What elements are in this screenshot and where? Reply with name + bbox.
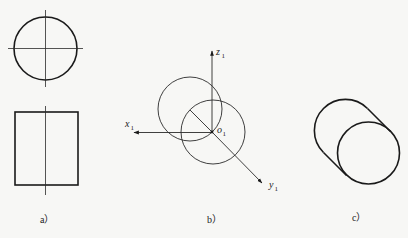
o1-label: o 1	[217, 124, 227, 138]
top-view	[8, 10, 83, 87]
caption-a: a）	[40, 214, 54, 225]
caption-c: c）	[352, 212, 366, 223]
svg-text:z: z	[215, 46, 220, 57]
front-view	[15, 106, 78, 195]
y1-label: y 1	[268, 179, 279, 193]
panel-b: z 1 x 1 o 1 y 1 b）	[124, 46, 279, 225]
x1-label: x 1	[124, 118, 135, 132]
front-view-rectangle	[15, 112, 78, 185]
y1-axis	[212, 132, 262, 183]
front-circle	[338, 122, 400, 184]
svg-text:y: y	[268, 179, 274, 190]
svg-text:1: 1	[222, 52, 226, 60]
origin-point	[211, 131, 214, 134]
figure-canvas: a） z 1 x 1 o 1 y 1 b） c）	[0, 0, 408, 238]
svg-text:1: 1	[275, 185, 279, 193]
panel-c: c）	[314, 99, 399, 223]
svg-text:1: 1	[223, 130, 227, 138]
y1-axis-inner	[190, 110, 212, 132]
svg-text:x: x	[124, 118, 130, 129]
caption-b: b）	[207, 214, 222, 225]
rear-circle-visible-arc	[314, 99, 367, 152]
panel-a: a）	[8, 10, 83, 225]
svg-text:o: o	[217, 124, 222, 135]
svg-text:1: 1	[131, 124, 135, 132]
z1-label: z 1	[215, 46, 226, 60]
